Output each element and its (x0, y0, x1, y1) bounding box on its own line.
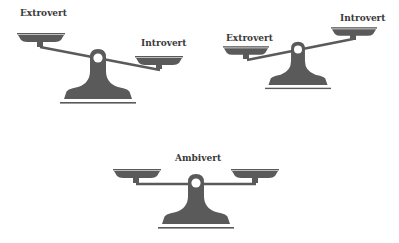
pan-left (17, 33, 65, 42)
pan-left (113, 169, 161, 178)
pan-stem (37, 42, 43, 47)
label-extrovert: Extrovert (226, 33, 274, 43)
pan-left (223, 46, 269, 55)
pan-right (231, 169, 279, 178)
pan-right (331, 27, 377, 36)
scale-stand (158, 174, 234, 229)
label-ambivert: Ambivert (174, 153, 222, 163)
label-introvert: Introvert (340, 13, 386, 23)
label-introvert: Introvert (141, 38, 187, 48)
scale-introvert-heavy: Extrovert Introvert (223, 13, 386, 89)
pan-stem (133, 178, 139, 183)
balance-scales-diagram: Extrovert Introvert Extrovert Introvert … (0, 0, 399, 243)
label-extrovert: Extrovert (20, 8, 68, 18)
pan-stem (252, 178, 258, 183)
pan-right (135, 56, 183, 65)
scale-extrovert-heavy: Extrovert Introvert (17, 8, 187, 104)
scale-stand (265, 42, 331, 89)
scale-stand (60, 49, 136, 104)
scale-balanced: Ambivert (113, 153, 279, 229)
